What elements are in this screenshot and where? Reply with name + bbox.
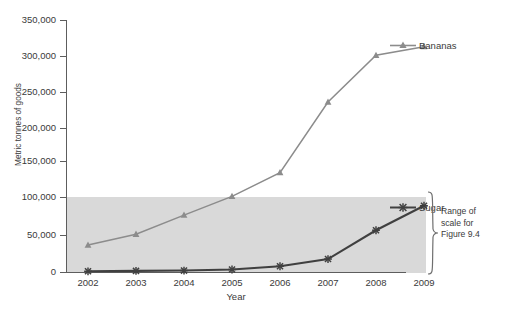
legend-marker-sugar-icon — [390, 202, 416, 213]
range-annotation-line-3: Figure 9.4 — [441, 229, 503, 241]
series-bananas — [85, 43, 428, 248]
legend-marker-bananas-icon — [390, 40, 416, 51]
range-annotation-line-2: scale for — [441, 218, 503, 230]
legend-item-bananas: Bananas — [390, 40, 457, 51]
figure-line-chart: 350,000 300,000 250,000 200,000 150,000 … — [0, 0, 508, 313]
range-annotation: Range of scale for Figure 9.4 — [441, 206, 503, 241]
range-annotation-line-1: Range of — [441, 206, 503, 218]
range-brace-icon — [427, 191, 439, 275]
legend-label-bananas: Bananas — [419, 40, 457, 51]
series-sugar — [84, 202, 428, 275]
